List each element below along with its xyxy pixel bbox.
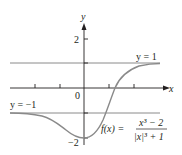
y-ticks	[84, 39, 88, 138]
y-axis-label: y	[80, 11, 86, 22]
function-denominator: |x|³ + 1	[134, 131, 164, 142]
asymptote-label-y-minus-1: y = −1	[10, 99, 36, 110]
y-tick-label-2: 2	[74, 34, 79, 45]
asymptote-label-y-1: y = 1	[136, 51, 157, 62]
origin-label: 0	[75, 90, 80, 101]
y-tick-label-minus-2: −2	[68, 137, 79, 148]
x-axis-label: x	[168, 83, 174, 94]
function-numerator: x³ − 2	[138, 117, 163, 128]
function-label: f(x) =	[101, 123, 124, 135]
x-ticks	[35, 84, 134, 88]
function-graph: y x 0 2 −2 y = 1 y = −1 f(x) = x³ − 2 |x…	[0, 0, 182, 155]
y-axis-arrow-icon	[82, 23, 87, 30]
